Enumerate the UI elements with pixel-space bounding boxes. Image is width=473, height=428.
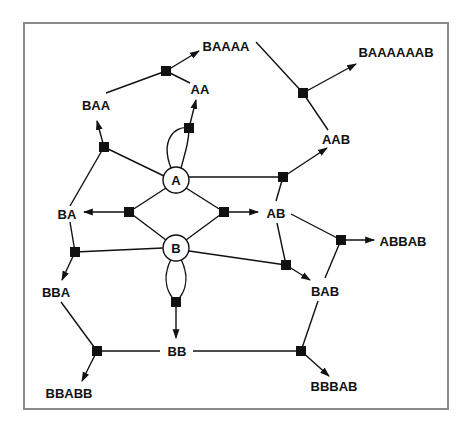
edge-to-aab <box>283 148 327 177</box>
edge-b-loop-right <box>176 259 186 302</box>
edge-ab-junction-to-b <box>186 212 224 240</box>
label-aa: AA <box>191 82 210 97</box>
label-bab: BAB <box>311 284 339 299</box>
junction-ba <box>124 207 134 217</box>
edge-a-to-ba-junction <box>129 188 166 212</box>
junctions <box>70 66 346 356</box>
junction-ab <box>219 207 229 217</box>
label-bb: BB <box>168 344 187 359</box>
junction-aa <box>184 123 194 133</box>
node-a: A <box>163 167 189 193</box>
junction-baa <box>99 142 109 152</box>
edge-a-loop-right <box>181 128 189 168</box>
label-baa: BAA <box>82 98 111 113</box>
junction-baaaaaab <box>298 88 308 98</box>
label-aab: AAB <box>322 132 350 147</box>
edge-aab-to-final-junction <box>303 93 328 130</box>
label-baaaa: BAAAA <box>203 39 251 54</box>
edge-a-to-baa-junction <box>104 147 164 176</box>
edge-to-baaaaaab <box>303 64 356 93</box>
edge-baa-to-baaaa-junction <box>106 71 166 93</box>
edge-b-to-bba-junction <box>75 248 163 252</box>
edge-b-loop-left <box>166 259 176 302</box>
node-b: B <box>163 235 189 261</box>
label-baaaaaab: BAAAAAAB <box>358 45 433 60</box>
label-abbab: ABBAB <box>380 234 427 249</box>
edge-bab-to-bbbab-junction <box>301 301 318 351</box>
node-a-label: A <box>171 173 181 188</box>
edges <box>61 42 374 381</box>
junction-bb <box>171 297 181 307</box>
label-bbabb: BBABB <box>46 386 93 401</box>
edge-b-to-bab-junction <box>189 251 286 265</box>
junction-abbab <box>336 235 346 245</box>
edge-bba-to-bbabb-junction <box>61 302 97 351</box>
junction-aab <box>278 172 288 182</box>
node-b-label: B <box>171 241 180 256</box>
label-bba: BBA <box>42 285 71 300</box>
edge-baaaa-to-final-junction <box>256 42 303 93</box>
edge-a-to-ab-junction <box>186 188 224 212</box>
label-ba: BA <box>58 207 77 222</box>
label-bbbab: BBBAB <box>311 379 358 394</box>
edge-ba-to-baa-junction <box>70 147 104 206</box>
junction-baaaa <box>161 66 171 76</box>
edge-ba-junction-to-b <box>129 212 166 240</box>
label-ab: AB <box>267 206 286 221</box>
junction-bbbab <box>296 346 306 356</box>
edge-ab-to-bab-junction <box>277 223 286 265</box>
rewriting-graph: A B BAAAA BAAAAAAB BAA AA AAB BA AB ABBA… <box>0 0 473 428</box>
edge-ab-to-abbab-junction <box>291 214 341 240</box>
junction-bba <box>70 247 80 257</box>
edge-bab-to-abbab-junction <box>325 240 341 278</box>
junction-bab <box>281 260 291 270</box>
junction-bbabb <box>92 346 102 356</box>
